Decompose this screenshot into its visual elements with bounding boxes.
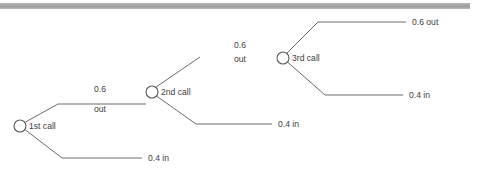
branch-second-in <box>157 96 273 124</box>
branch-third-in <box>288 62 404 95</box>
tree-diagram-canvas: 1st call 2nd call 3rd call 0.6 out 0.4 i… <box>0 0 477 179</box>
label-second-out-outcome: out <box>234 54 247 64</box>
node-third-call <box>277 52 289 64</box>
label-first-out-outcome: out <box>94 104 107 114</box>
branch-third-out <box>287 22 406 53</box>
branch-first-in <box>26 130 143 158</box>
label-second-in: 0.4 in <box>278 119 299 129</box>
label-third-out: 0.6 out <box>412 17 439 27</box>
label-second-out-probability: 0.6 <box>234 40 246 50</box>
label-first-in: 0.4 in <box>148 153 169 163</box>
node-first-call <box>14 120 26 132</box>
probability-tree-figure: 1st call 2nd call 3rd call 0.6 out 0.4 i… <box>0 0 477 179</box>
node-label-first-call: 1st call <box>29 121 56 131</box>
node-label-second-call: 2nd call <box>161 87 191 97</box>
branch-second-to-third <box>156 57 200 87</box>
label-third-in: 0.4 in <box>409 90 430 100</box>
node-second-call <box>146 86 158 98</box>
label-first-out-probability: 0.6 <box>94 84 106 94</box>
branch-first-to-second <box>26 104 147 122</box>
node-label-third-call: 3rd call <box>292 53 320 63</box>
